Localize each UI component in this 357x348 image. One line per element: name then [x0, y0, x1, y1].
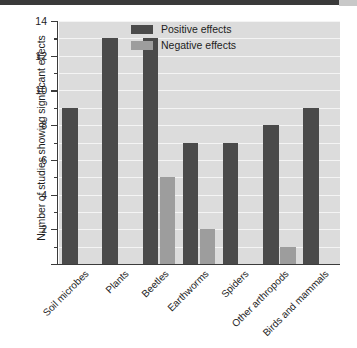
legend-label-positive: Positive effects [161, 23, 231, 35]
scan-artifact-band [0, 0, 357, 5]
legend-label-negative: Negative effects [161, 39, 236, 51]
y-tick-minor [54, 177, 58, 178]
y-tick-minor [54, 143, 58, 144]
x-axis-line [57, 264, 340, 265]
y-tick-major [51, 90, 58, 91]
gridline [59, 56, 340, 57]
y-tick-label: 12 [7, 50, 47, 62]
bar-positive [303, 108, 319, 264]
y-tick-minor [54, 212, 58, 213]
plot-area [59, 21, 340, 264]
y-tick-major [51, 125, 58, 126]
legend-item-negative: Negative effects [131, 39, 236, 51]
y-tick-minor [54, 73, 58, 74]
gridline [59, 90, 340, 91]
y-tick-major [51, 21, 58, 22]
scan-artifact-band-right [339, 0, 357, 6]
bar-positive [62, 108, 78, 264]
y-tick-label: 4 [7, 189, 47, 201]
y-tick-major [51, 160, 58, 161]
gridline [59, 125, 340, 126]
gridline [59, 21, 340, 22]
y-tick-major [51, 56, 58, 57]
y-tick-label: 8 [7, 119, 47, 131]
legend-swatch-positive-icon [131, 25, 153, 34]
y-tick-label: 10 [7, 84, 47, 96]
chart-legend: Positive effects Negative effects [131, 23, 236, 51]
x-axis-label: Soil microbes [0, 268, 90, 348]
legend-item-positive: Positive effects [131, 23, 236, 35]
bar-negative [280, 247, 296, 264]
y-tick-minor [54, 247, 58, 248]
y-tick-label: 2 [7, 223, 47, 235]
y-tick-major [51, 264, 58, 265]
y-tick-label: 6 [7, 154, 47, 166]
y-tick-major [51, 195, 58, 196]
gridline [59, 143, 340, 144]
legend-swatch-negative-icon [131, 41, 153, 50]
gridline [59, 160, 340, 161]
bar-negative [160, 177, 176, 264]
gridline [59, 108, 340, 109]
bar-positive [183, 143, 199, 265]
y-tick-label: 14 [7, 15, 47, 27]
bar-negative [200, 229, 216, 264]
gridline [59, 195, 340, 196]
bar-chart-figure: Number of studies showing significant ef… [0, 0, 357, 348]
gridline [59, 73, 340, 74]
bar-positive [143, 38, 159, 264]
bar-positive [223, 143, 239, 265]
y-tick-minor [54, 38, 58, 39]
gridline [59, 177, 340, 178]
bar-positive [102, 38, 118, 264]
bar-positive [263, 125, 279, 264]
y-tick-major [51, 229, 58, 230]
y-tick-minor [54, 108, 58, 109]
gridline [59, 212, 340, 213]
